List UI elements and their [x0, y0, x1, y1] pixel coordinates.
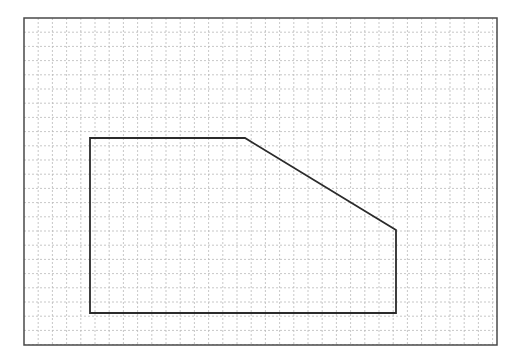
- grid-polygon-figure: [0, 0, 523, 359]
- figure-root: [0, 0, 523, 359]
- paper-background: [0, 0, 523, 359]
